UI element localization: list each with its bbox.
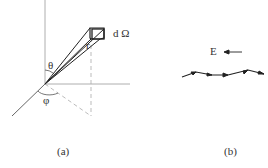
panel-b-figure [182,50,264,77]
x-axis [12,84,45,116]
panel-a-figure [12,0,130,116]
projection-line [45,84,91,116]
chain-arrowhead-2 [207,73,212,76]
theta-label: θ [48,60,53,71]
chain-arrowhead-3 [223,73,228,77]
diagram-canvas [0,0,268,168]
chain-arrowhead-4 [243,70,248,74]
phi-label: φ [43,95,49,106]
caption-b: (b) [224,146,237,157]
field-label: E [210,46,217,57]
chain-arrowhead-5 [258,71,264,74]
solid-angle-label: d Ω [113,28,129,39]
radius-label: r [86,40,90,51]
solid-angle-cone [45,28,104,84]
chain-arrowhead-1 [191,72,196,75]
field-arrow-head [224,50,229,54]
caption-a: (a) [57,146,69,157]
